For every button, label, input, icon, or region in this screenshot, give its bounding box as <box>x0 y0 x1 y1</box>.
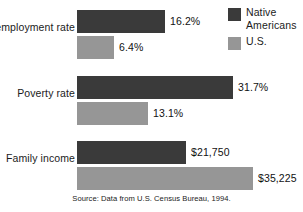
source-note: Source: Data from U.S. Census Bureau, 19… <box>0 194 303 203</box>
bar-family-income-us[interactable] <box>77 167 253 190</box>
category-label-family-income: Family income <box>0 152 75 165</box>
bar-group-family-income: Family income $21,750 $35,225 <box>0 141 303 189</box>
bar-value-poverty-rate-native-americans: 31.7% <box>238 76 268 99</box>
bar-unemployment-rate-us[interactable] <box>77 36 114 59</box>
bar-family-income-native-americans[interactable] <box>77 141 186 164</box>
legend-item-us[interactable]: U.S. <box>228 35 303 48</box>
bar-group-poverty-rate: Poverty rate 31.7% 13.1% <box>0 76 303 124</box>
bar-value-family-income-us: $35,225 <box>258 167 297 190</box>
bar-value-family-income-native-americans: $21,750 <box>191 141 230 164</box>
bar-unemployment-rate-native-americans[interactable] <box>77 10 165 33</box>
legend-label-native-americans: Native Americans <box>246 6 303 31</box>
legend-swatch-icon-native-americans <box>228 8 241 21</box>
category-label-unemployment-rate: Unemployment rate <box>0 21 75 34</box>
legend-swatch-icon-us <box>228 37 241 50</box>
bar-value-poverty-rate-us: 13.1% <box>153 102 183 125</box>
chart-figure: Unemployment rate 16.2% 6.4% Poverty rat… <box>0 0 303 212</box>
bar-poverty-rate-us[interactable] <box>77 102 148 125</box>
bar-value-unemployment-rate-us: 6.4% <box>119 36 143 59</box>
chart-legend: Native Americans U.S. <box>228 6 303 52</box>
bar-poverty-rate-native-americans[interactable] <box>77 76 233 99</box>
legend-item-native-americans[interactable]: Native Americans <box>228 6 303 31</box>
category-label-poverty-rate: Poverty rate <box>0 87 75 100</box>
bar-value-unemployment-rate-native-americans: 16.2% <box>170 10 200 33</box>
legend-label-us: U.S. <box>246 35 303 48</box>
